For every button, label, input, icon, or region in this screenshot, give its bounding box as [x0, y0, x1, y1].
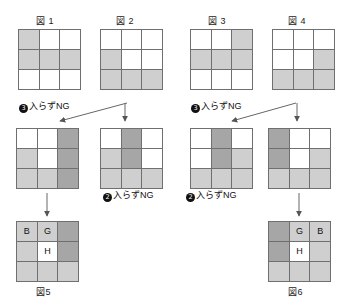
grid-cell[interactable]	[269, 149, 289, 168]
grid-cell[interactable]	[191, 50, 211, 69]
grid-cell[interactable]	[269, 222, 289, 241]
grid-cell[interactable]	[38, 149, 58, 168]
grid-cell[interactable]	[60, 30, 80, 49]
grid-cell[interactable]	[122, 50, 142, 69]
grid-mid2[interactable]	[100, 128, 163, 189]
grid-cell[interactable]	[191, 70, 211, 89]
grid-cell[interactable]	[58, 222, 78, 241]
grid-cell[interactable]	[38, 129, 58, 148]
grid-cell[interactable]	[269, 242, 289, 261]
grid-cell[interactable]	[314, 30, 334, 49]
grid-cell[interactable]	[232, 149, 252, 168]
grid-cell[interactable]	[310, 149, 330, 168]
grid-cell[interactable]	[17, 262, 37, 281]
grid-fig6[interactable]: GBH	[268, 221, 331, 282]
grid-cell[interactable]	[17, 149, 37, 168]
grid-cell[interactable]	[212, 149, 232, 168]
grid-cell[interactable]: G	[38, 222, 58, 241]
grid-fig2[interactable]	[100, 29, 163, 90]
grid-cell[interactable]	[294, 30, 314, 49]
grid-cell[interactable]	[142, 50, 162, 69]
grid-fig1[interactable]	[18, 29, 81, 90]
grid-cell[interactable]	[58, 262, 78, 281]
grid-cell[interactable]	[269, 262, 289, 281]
grid-cell[interactable]	[310, 242, 330, 261]
grid-cell[interactable]	[40, 50, 60, 69]
grid-cell[interactable]	[122, 30, 142, 49]
grid-cell[interactable]	[212, 169, 232, 188]
grid-cell[interactable]	[58, 242, 78, 261]
grid-cell[interactable]	[142, 70, 162, 89]
grid-mid1[interactable]	[16, 128, 79, 189]
grid-cell[interactable]	[232, 50, 252, 69]
grid-cell[interactable]: H	[38, 242, 58, 261]
grid-cell[interactable]	[273, 30, 293, 49]
grid-cell[interactable]	[191, 169, 211, 188]
grid-cell[interactable]: H	[290, 242, 310, 261]
grid-cell[interactable]	[142, 129, 162, 148]
grid-fig5[interactable]: BGH	[16, 221, 79, 282]
grid-cell[interactable]	[269, 129, 289, 148]
grid-cell[interactable]	[19, 30, 39, 49]
grid-cell[interactable]	[232, 129, 252, 148]
grid-cell[interactable]	[122, 169, 142, 188]
grid-cell[interactable]	[314, 50, 334, 69]
grid-mid3[interactable]	[190, 128, 253, 189]
grid-cell[interactable]	[101, 149, 121, 168]
grid-cell[interactable]	[290, 129, 310, 148]
grid-cell[interactable]	[232, 70, 252, 89]
grid-cell[interactable]	[17, 169, 37, 188]
grid-cell[interactable]	[310, 169, 330, 188]
grid-cell[interactable]	[40, 30, 60, 49]
grid-cell[interactable]	[191, 30, 211, 49]
grid-cell[interactable]	[38, 262, 58, 281]
grid-cell[interactable]	[60, 70, 80, 89]
grid-cell[interactable]	[122, 149, 142, 168]
grid-cell[interactable]	[290, 262, 310, 281]
grid-cell[interactable]	[40, 70, 60, 89]
grid-cell[interactable]: B	[17, 222, 37, 241]
grid-cell[interactable]	[101, 169, 121, 188]
grid-cell[interactable]: G	[290, 222, 310, 241]
grid-cell[interactable]	[212, 50, 232, 69]
grid-cell[interactable]	[212, 30, 232, 49]
grid-cell[interactable]	[191, 149, 211, 168]
grid-cell[interactable]	[17, 242, 37, 261]
grid-cell[interactable]	[101, 30, 121, 49]
grid-cell[interactable]	[273, 70, 293, 89]
grid-cell[interactable]	[290, 149, 310, 168]
grid-cell[interactable]	[232, 30, 252, 49]
grid-cell[interactable]	[142, 149, 162, 168]
grid-cell[interactable]	[310, 262, 330, 281]
grid-cell[interactable]	[142, 30, 162, 49]
grid-cell[interactable]	[212, 70, 232, 89]
grid-mid4[interactable]	[268, 128, 331, 189]
grid-cell[interactable]	[60, 50, 80, 69]
grid-cell[interactable]	[58, 169, 78, 188]
grid-cell[interactable]	[294, 70, 314, 89]
grid-cell[interactable]: B	[310, 222, 330, 241]
grid-cell[interactable]	[17, 129, 37, 148]
grid-fig4[interactable]	[272, 29, 335, 90]
grid-cell[interactable]	[269, 169, 289, 188]
grid-cell[interactable]	[310, 129, 330, 148]
grid-cell[interactable]	[19, 50, 39, 69]
grid-cell[interactable]	[232, 169, 252, 188]
grid-cell[interactable]	[19, 70, 39, 89]
grid-cell[interactable]	[294, 50, 314, 69]
grid-cell[interactable]	[212, 129, 232, 148]
grid-cell[interactable]	[101, 50, 121, 69]
grid-cell[interactable]	[101, 129, 121, 148]
grid-fig3[interactable]	[190, 29, 253, 90]
grid-cell[interactable]	[58, 129, 78, 148]
grid-cell[interactable]	[142, 169, 162, 188]
grid-cell[interactable]	[191, 129, 211, 148]
grid-cell[interactable]	[101, 70, 121, 89]
grid-cell[interactable]	[290, 169, 310, 188]
grid-cell[interactable]	[122, 129, 142, 148]
grid-cell[interactable]	[58, 149, 78, 168]
grid-cell[interactable]	[122, 70, 142, 89]
grid-cell[interactable]	[273, 50, 293, 69]
grid-cell[interactable]	[314, 70, 334, 89]
grid-cell[interactable]	[38, 169, 58, 188]
